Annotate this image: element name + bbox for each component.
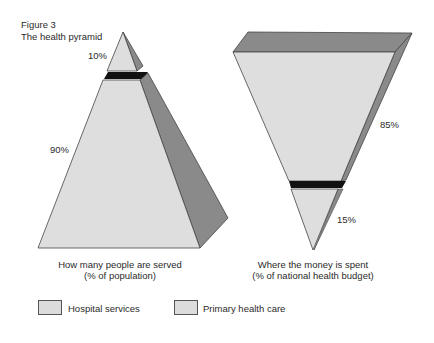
legend-label-hospital: Hospital services — [68, 303, 140, 314]
left-caption-line2: (% of population) — [30, 270, 210, 281]
right-caption-line2: (% of national health budget) — [233, 270, 393, 281]
right-caption-line1: Where the money is spent — [233, 259, 393, 270]
right-top-percent: 85% — [380, 119, 399, 130]
left-bottom-percent: 90% — [50, 144, 69, 155]
right-tip-face — [291, 189, 338, 250]
left-pyramid — [38, 32, 228, 248]
pyramid-diagram — [0, 0, 434, 343]
legend-swatch-hospital — [38, 300, 62, 315]
right-pyramid — [233, 32, 412, 250]
legend-label-primary: Primary health care — [203, 303, 285, 314]
right-top-face — [233, 32, 412, 52]
left-top-percent: 10% — [88, 50, 107, 61]
left-caption-line1: How many people are served — [30, 259, 210, 270]
legend-swatch-primary — [174, 300, 198, 315]
left-separator-band — [104, 72, 148, 79]
right-separator-band — [289, 181, 346, 188]
right-bottom-percent: 15% — [337, 214, 356, 225]
